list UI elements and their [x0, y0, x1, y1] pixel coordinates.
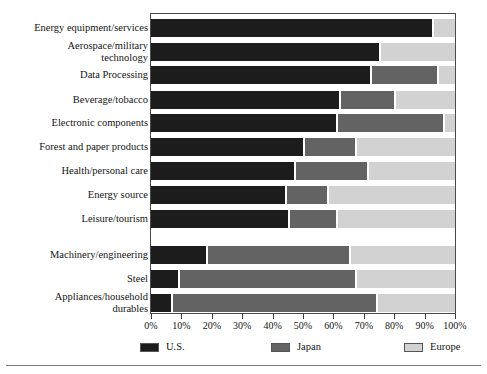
- bar-segment-europe: [369, 162, 455, 180]
- bar-segment-europe: [434, 19, 455, 37]
- legend-item-europe: Europe: [404, 340, 460, 354]
- chart-legend: U.S.JapanEurope: [140, 340, 470, 356]
- legend-swatch-icon: [271, 343, 290, 352]
- bar-segment-japan: [173, 294, 376, 312]
- x-axis-tick-label: 40%: [263, 320, 281, 332]
- x-axis-tick-label: 80%: [385, 320, 403, 332]
- category-label: Machinery/engineering: [2, 249, 148, 261]
- bar-segment-us: [151, 294, 171, 312]
- category-label: Health/personal care: [2, 165, 148, 177]
- bar-segment-us: [151, 270, 178, 288]
- x-axis-tick: [303, 314, 304, 319]
- bar-row: [151, 246, 455, 264]
- x-axis-tick: [273, 314, 274, 319]
- category-label: Energy equipment/services: [2, 22, 148, 34]
- bar-row: [151, 66, 455, 84]
- bar-row: [151, 138, 455, 156]
- legend-label: Europe: [430, 340, 460, 354]
- x-axis-tick-label: 0%: [144, 320, 157, 332]
- bar-segment-europe: [329, 186, 455, 204]
- bar-segment-us: [151, 210, 288, 228]
- bar-row: [151, 43, 455, 61]
- category-label: Forest and paper products: [2, 141, 148, 153]
- x-axis-tick: [212, 314, 213, 319]
- bar-segment-us: [151, 91, 339, 109]
- bar-row: [151, 91, 455, 109]
- bar-segment-japan: [338, 114, 442, 132]
- x-axis: 0%10%20%30%40%50%60%70%80%90%100%: [0, 314, 487, 340]
- x-axis-tick-label: 70%: [355, 320, 373, 332]
- legend-swatch-icon: [404, 343, 423, 352]
- bar-segment-japan: [296, 162, 367, 180]
- bar-segment-europe: [396, 91, 455, 109]
- x-axis-tick: [151, 314, 152, 319]
- bar-segment-us: [151, 162, 294, 180]
- bar-segment-europe: [378, 294, 455, 312]
- legend-item-japan: Japan: [271, 340, 321, 354]
- bar-segment-japan: [341, 91, 394, 109]
- x-axis-tick-label: 20%: [203, 320, 221, 332]
- category-label: Energy source: [2, 189, 148, 201]
- legend-swatch-icon: [140, 343, 159, 352]
- category-label: Data Processing: [2, 69, 148, 81]
- x-axis-tick: [394, 314, 395, 319]
- category-label: Steel: [2, 273, 148, 285]
- bar-row: [151, 294, 455, 312]
- bar-row: [151, 114, 455, 132]
- stacked-bar-chart: Energy equipment/servicesAerospace/milit…: [0, 0, 487, 374]
- bar-segment-japan: [290, 210, 337, 228]
- bar-row: [151, 19, 455, 37]
- category-label: Leisure/tourism: [2, 213, 148, 225]
- bar-segment-us: [151, 114, 336, 132]
- bar-row: [151, 186, 455, 204]
- x-axis-tick-label: 30%: [233, 320, 251, 332]
- x-axis-tick-label: 90%: [415, 320, 433, 332]
- bar-segment-japan: [180, 270, 354, 288]
- bars-layer: [150, 13, 456, 314]
- x-axis-tick: [364, 314, 365, 319]
- bar-segment-japan: [208, 246, 349, 264]
- x-axis-tick: [181, 314, 182, 319]
- category-label: Electronic components: [2, 117, 148, 129]
- x-axis-tick: [455, 314, 456, 319]
- category-label: Beverage/tobacco: [2, 94, 148, 106]
- bar-segment-japan: [287, 186, 328, 204]
- x-axis-tick-label: 60%: [324, 320, 342, 332]
- legend-label: Japan: [297, 340, 321, 354]
- category-label: Aerospace/military technology: [2, 40, 148, 63]
- category-label: Appliances/household durables: [2, 291, 148, 314]
- x-axis-tick-label: 10%: [172, 320, 190, 332]
- bar-segment-europe: [381, 43, 455, 61]
- bar-segment-us: [151, 43, 379, 61]
- bottom-divider-rule: [6, 365, 481, 366]
- x-axis-tick-label: 50%: [294, 320, 312, 332]
- bar-segment-europe: [338, 210, 455, 228]
- bar-segment-us: [151, 138, 303, 156]
- bar-segment-europe: [351, 246, 455, 264]
- bar-segment-europe: [357, 138, 455, 156]
- bar-segment-us: [151, 186, 285, 204]
- x-axis-tick: [333, 314, 334, 319]
- bar-segment-europe: [357, 270, 455, 288]
- bar-segment-japan: [372, 66, 437, 84]
- x-axis-tick: [425, 314, 426, 319]
- bar-segment-us: [151, 246, 206, 264]
- bar-row: [151, 210, 455, 228]
- legend-label: U.S.: [166, 340, 185, 354]
- bar-row: [151, 162, 455, 180]
- bar-segment-japan: [305, 138, 355, 156]
- bar-segment-us: [151, 66, 370, 84]
- bar-segment-europe: [439, 66, 455, 84]
- x-axis-tick-label: 100%: [443, 320, 466, 332]
- x-axis-tick: [242, 314, 243, 319]
- bar-segment-us: [151, 19, 432, 37]
- bar-segment-europe: [445, 114, 455, 132]
- legend-item-us: U.S.: [140, 340, 185, 354]
- bar-row: [151, 270, 455, 288]
